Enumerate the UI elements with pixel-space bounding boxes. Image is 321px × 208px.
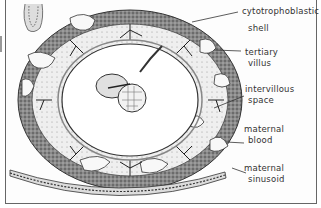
label-line: blood — [248, 135, 284, 146]
label-line: intervillous — [245, 84, 294, 95]
label-line: tertiary — [245, 47, 278, 58]
label-cytotrophoblastic-shell: cytotrophoblastic shell — [242, 6, 319, 34]
label-intervillous-space: intervillous space — [245, 84, 294, 106]
label-maternal-sinusoid: maternal sinusoid — [244, 163, 285, 185]
label-line: cytotrophoblastic — [242, 6, 319, 17]
label-line: space — [248, 95, 294, 106]
label-maternal-blood: maternal blood — [244, 124, 284, 146]
label-line: maternal — [244, 163, 285, 174]
label-line: sinusoid — [248, 174, 285, 185]
label-line: villus — [248, 58, 278, 69]
label-line: shell — [248, 23, 319, 34]
label-tertiary-villus: tertiary villus — [245, 47, 278, 69]
uterine-gland — [24, 4, 43, 32]
label-line: maternal — [244, 124, 284, 135]
